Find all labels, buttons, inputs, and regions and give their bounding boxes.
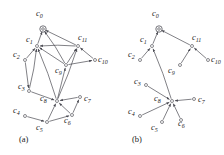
graph-node-c9 <box>65 64 68 67</box>
graph-edge <box>38 32 42 44</box>
graph-edge <box>142 102 169 115</box>
graph-node-c4 <box>139 115 142 118</box>
node-label-c4: c4 <box>13 105 20 116</box>
graph-edge <box>46 30 76 45</box>
node-label-c10: c10 <box>211 54 221 65</box>
graph-node-c10 <box>207 59 210 62</box>
edges-layer <box>25 30 206 121</box>
graph-node-c11 <box>191 45 194 48</box>
node-label-c6: c6 <box>64 115 71 126</box>
node-label-c2: c2 <box>128 49 135 60</box>
graph-edge <box>45 32 65 63</box>
graph-edge <box>175 99 192 101</box>
graph-node-c2 <box>24 59 27 62</box>
graph-node-c8 <box>171 100 174 103</box>
node-label-c5: c5 <box>36 122 43 133</box>
graph-node-c0 <box>42 28 45 31</box>
node-label-c0: c0 <box>152 8 159 19</box>
graph-edge <box>29 49 36 89</box>
graph-node-c7 <box>193 98 196 101</box>
graph-node-c7 <box>79 96 82 99</box>
graph-node-c4 <box>24 115 27 118</box>
node-label-c11: c11 <box>78 32 87 43</box>
graph-node-c5 <box>46 121 49 124</box>
graph-node-c1 <box>151 45 154 48</box>
graph-edge <box>68 61 92 65</box>
graph-diagram-svg: c0c1c2c3c4c5c6c7c8c9c10c11c0c1c2c3c4c5c6… <box>0 0 224 155</box>
node-label-c3: c3 <box>18 81 25 92</box>
graph-edge <box>38 49 56 99</box>
node-label-c8: c8 <box>154 93 161 104</box>
figure-container: c0c1c2c3c4c5c6c7c8c9c10c11c0c1c2c3c4c5c6… <box>0 0 224 155</box>
graph-edge <box>40 45 76 46</box>
node-label-c0: c0 <box>36 8 43 19</box>
graph-node-c8 <box>56 100 59 103</box>
graph-edge <box>163 104 171 120</box>
graph-edge <box>25 62 28 88</box>
graph-edge <box>153 32 158 44</box>
graph-node-c3 <box>145 84 148 87</box>
graph-edge <box>142 48 150 58</box>
graph-edge <box>173 104 180 118</box>
graph-node-c11 <box>77 45 80 48</box>
node-label-c2: c2 <box>13 49 20 60</box>
node-label-c9: c9 <box>55 65 62 76</box>
graph-edge <box>27 117 44 122</box>
graph-edge <box>60 97 78 100</box>
graph-node-c0 <box>158 28 161 31</box>
labels-layer: c0c1c2c3c4c5c6c7c8c9c10c11c0c1c2c3c4c5c6… <box>13 8 221 133</box>
node-label-c1: c1 <box>140 34 147 45</box>
captions-layer: (a)(b) <box>19 134 142 144</box>
node-label-c6: c6 <box>178 118 185 129</box>
graph-node-c5 <box>161 121 164 124</box>
node-label-c10: c10 <box>98 54 108 65</box>
node-label-c5: c5 <box>151 122 158 133</box>
node-label-c7: c7 <box>84 93 92 104</box>
graph-edge <box>162 30 190 45</box>
graph-edge <box>194 48 206 58</box>
graph-edge <box>27 48 35 58</box>
node-label-c8: c8 <box>40 93 47 104</box>
node-label-c3: c3 <box>134 76 141 87</box>
node-label-c11: c11 <box>192 32 201 43</box>
graph-node-c6 <box>71 114 74 117</box>
panel-caption-a: (a) <box>19 134 29 144</box>
graph-edge <box>48 104 56 120</box>
graph-node-c3 <box>28 90 31 93</box>
node-label-c7: c7 <box>198 94 206 105</box>
node-label-c4: c4 <box>128 106 135 117</box>
graph-edge <box>80 48 93 59</box>
node-label-c9: c9 <box>168 65 175 76</box>
graph-node-c1 <box>36 45 39 48</box>
graph-edge <box>59 103 70 113</box>
panel-caption-b: (b) <box>132 134 142 144</box>
graph-edge <box>73 100 79 113</box>
graph-edge <box>181 49 190 63</box>
graph-node-c9 <box>179 64 182 67</box>
node-label-c1: c1 <box>26 34 33 45</box>
graph-node-c2 <box>139 59 142 62</box>
graph-node-c10 <box>94 59 97 62</box>
